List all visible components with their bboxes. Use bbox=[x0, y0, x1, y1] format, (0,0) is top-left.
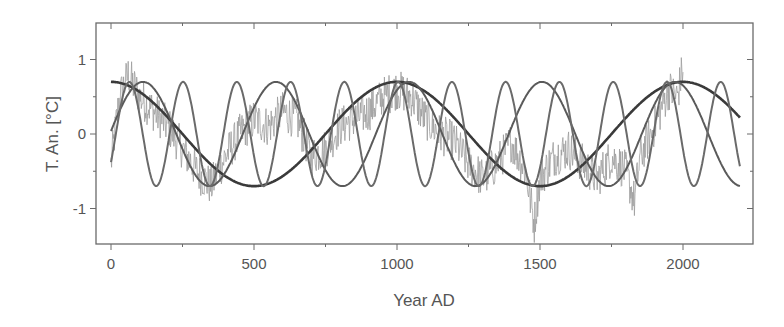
x-tick-label: 2000 bbox=[666, 255, 699, 272]
x-tick-label: 500 bbox=[241, 255, 266, 272]
y-tick-label: 1 bbox=[78, 51, 86, 68]
x-tick-label: 1000 bbox=[380, 255, 413, 272]
y-tick-label: -1 bbox=[73, 200, 86, 217]
y-axis-title: T. An. [°C] bbox=[43, 96, 62, 172]
x-axis-title: Year AD bbox=[393, 291, 455, 310]
x-tick-label: 0 bbox=[107, 255, 115, 272]
chart: 0500100015002000 -101 Year AD T. An. [°C… bbox=[0, 0, 784, 327]
series-layer bbox=[111, 58, 740, 243]
x-tick-label: 1500 bbox=[523, 255, 556, 272]
y-tick-label: 0 bbox=[78, 125, 86, 142]
